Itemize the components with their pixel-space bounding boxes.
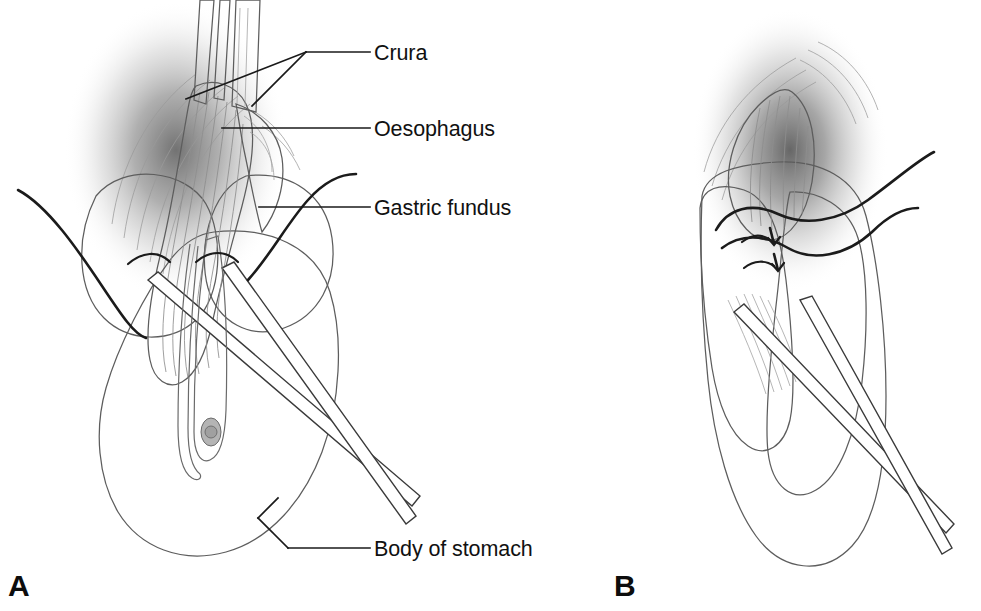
panel-letter-a: A [8,569,30,602]
panel-a [18,0,420,556]
panel-letters: A B [8,569,636,602]
panel-letter-b: B [614,569,636,602]
surgical-illustration: Crura Oesophagus Gastric fundus Body of … [0,0,981,611]
callout-label-oesophagus: Oesophagus [374,117,495,141]
grasper-instrument-b-2 [800,296,952,554]
leader-body-of-stomach-elbow [258,518,288,548]
leader-body-of-stomach-tail [258,498,278,518]
callout-label-gastric-fundus: Gastric fundus [374,196,511,220]
callout-label-body-of-stomach: Body of stomach [374,537,533,561]
diaphragm-shadow-a [64,0,288,300]
panel-b [692,8,954,566]
figure-root: Crura Oesophagus Gastric fundus Body of … [0,0,981,611]
callout-label-crura: Crura [374,41,427,65]
